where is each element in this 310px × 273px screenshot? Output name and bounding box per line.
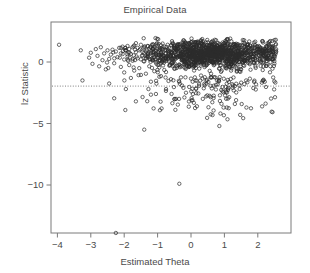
data-point	[214, 88, 217, 91]
data-point	[241, 116, 244, 119]
data-point	[248, 77, 251, 80]
data-point	[261, 68, 264, 71]
data-point	[138, 66, 141, 69]
data-point	[159, 100, 162, 103]
data-point	[124, 87, 127, 90]
data-point	[240, 102, 243, 105]
data-point	[172, 85, 175, 88]
data-point	[274, 42, 277, 45]
data-point	[94, 47, 97, 50]
data-point	[156, 71, 159, 74]
data-point	[91, 62, 94, 65]
data-point	[207, 106, 210, 109]
data-point	[147, 87, 150, 90]
data-point	[234, 98, 237, 101]
data-point	[123, 71, 126, 74]
data-point	[179, 76, 182, 79]
data-points-group	[57, 36, 278, 234]
x-tick-label: 1	[222, 239, 227, 250]
data-point	[57, 43, 60, 46]
data-point	[249, 107, 252, 110]
data-point	[102, 52, 105, 55]
data-point	[249, 68, 252, 71]
data-point	[112, 62, 115, 65]
data-point	[187, 105, 190, 108]
data-point	[112, 97, 115, 100]
x-tick-label: −4	[52, 239, 63, 250]
data-point	[201, 97, 204, 100]
data-point	[139, 43, 142, 46]
data-point	[141, 95, 144, 98]
data-point	[176, 103, 179, 106]
data-point	[107, 57, 110, 60]
scatter-plot-figure: Empirical Data lz Statistic Estimated Th…	[0, 0, 310, 273]
data-point	[218, 94, 221, 97]
data-point	[271, 76, 274, 79]
data-point	[101, 58, 104, 61]
x-tick-label: −2	[119, 239, 130, 250]
y-tick-label: −5	[33, 118, 44, 129]
data-point	[199, 74, 202, 77]
data-point	[223, 94, 226, 97]
data-point	[178, 182, 181, 185]
data-point	[123, 58, 126, 61]
data-point	[226, 118, 229, 121]
data-point	[116, 55, 119, 58]
x-tick-label: −3	[85, 239, 96, 250]
data-point	[139, 73, 142, 76]
data-point	[149, 80, 152, 83]
data-point	[233, 102, 236, 105]
data-point	[128, 47, 131, 50]
data-point	[123, 79, 126, 82]
data-point	[106, 49, 109, 52]
data-point	[171, 102, 174, 105]
y-tick-label: −10	[27, 179, 43, 190]
data-point	[229, 69, 232, 72]
data-point	[142, 37, 145, 40]
data-point	[193, 76, 196, 79]
data-point	[146, 100, 149, 103]
x-tick-label: −1	[152, 239, 163, 250]
data-point	[222, 77, 225, 80]
data-point	[154, 92, 157, 95]
data-point	[184, 91, 187, 94]
x-axis-ticks: −4−3−2−1012	[52, 233, 260, 250]
data-point	[269, 97, 272, 100]
data-point	[183, 96, 186, 99]
data-point	[129, 76, 132, 79]
data-point	[153, 70, 156, 73]
data-point	[272, 64, 275, 67]
y-axis-ticks: 0−5−10	[27, 56, 51, 190]
data-point	[189, 77, 192, 80]
data-point	[194, 91, 197, 94]
data-point	[211, 101, 214, 104]
data-point	[232, 76, 235, 79]
data-point	[99, 46, 102, 49]
data-point	[273, 96, 276, 99]
data-point	[124, 108, 127, 111]
data-point	[272, 88, 275, 91]
data-point	[119, 65, 122, 68]
data-point	[170, 92, 173, 95]
data-point	[81, 79, 84, 82]
data-point	[209, 72, 212, 75]
data-point	[97, 65, 100, 68]
data-point	[219, 112, 222, 115]
data-point	[238, 113, 241, 116]
data-point	[268, 71, 271, 74]
data-point	[107, 82, 110, 85]
data-point	[260, 105, 263, 108]
data-point	[113, 57, 116, 60]
data-point	[245, 106, 248, 109]
plot-svg: −4−3−2−1012 0−5−10	[0, 0, 310, 273]
data-point	[109, 53, 112, 56]
data-point	[269, 65, 272, 68]
data-point	[89, 51, 92, 54]
data-point	[222, 114, 225, 117]
data-point	[105, 61, 108, 64]
data-point	[152, 107, 155, 110]
data-point	[238, 87, 241, 90]
data-point	[212, 109, 215, 112]
data-point	[148, 65, 151, 68]
data-point	[87, 56, 90, 59]
